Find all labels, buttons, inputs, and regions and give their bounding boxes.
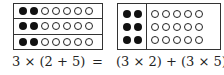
open-dot-icon xyxy=(52,38,60,46)
filled-dot-icon xyxy=(19,22,27,30)
filled-dot-icon xyxy=(123,23,131,31)
open-dot-icon xyxy=(162,10,170,18)
open-dot-icon xyxy=(52,22,60,30)
open-dot-icon xyxy=(63,22,71,30)
open-dot-icon xyxy=(173,23,181,31)
filled-group xyxy=(118,4,147,49)
left-row-1 xyxy=(14,4,102,19)
open-dot-icon xyxy=(41,7,49,15)
open-dot-icon xyxy=(151,10,159,18)
filled-dot-icon xyxy=(19,7,27,15)
filled-dot-icon xyxy=(30,7,38,15)
open-dot-icon xyxy=(173,10,181,18)
open-dot-icon xyxy=(162,36,170,44)
open-dot-icon xyxy=(184,23,192,31)
filled-dot-icon xyxy=(134,23,142,31)
right-array-box xyxy=(117,3,221,50)
open-dot-icon xyxy=(63,38,71,46)
open-dot-icon xyxy=(85,38,93,46)
open-dot-icon xyxy=(162,23,170,31)
filled-dot-icon xyxy=(123,36,131,44)
open-dot-icon xyxy=(74,38,82,46)
left-array-box xyxy=(13,3,103,50)
open-dot-icon xyxy=(85,7,93,15)
filled-dot-icon xyxy=(30,22,38,30)
open-dot-icon xyxy=(184,36,192,44)
open-dot-icon xyxy=(74,7,82,15)
open-dot-icon xyxy=(173,36,181,44)
open-dot-icon xyxy=(151,36,159,44)
filled-dot-icon xyxy=(134,36,142,44)
open-group xyxy=(147,4,220,49)
filled-dot-icon xyxy=(30,38,38,46)
open-dot-icon xyxy=(195,36,203,44)
open-dot-icon xyxy=(52,7,60,15)
filled-dot-icon xyxy=(123,10,131,18)
left-row-3 xyxy=(14,35,102,49)
open-dot-icon xyxy=(85,22,93,30)
equation-left: 3 × (2 + 5) xyxy=(12,54,85,69)
open-dot-icon xyxy=(41,22,49,30)
open-dot-icon xyxy=(195,23,203,31)
open-dot-icon xyxy=(63,7,71,15)
open-dot-icon xyxy=(74,22,82,30)
equation-right: (3 × 2) + (3 × 5) xyxy=(116,54,224,69)
left-row-2 xyxy=(14,19,102,34)
open-dot-icon xyxy=(184,10,192,18)
open-dot-icon xyxy=(151,23,159,31)
equation-equals: = xyxy=(92,54,103,69)
open-dot-icon xyxy=(195,10,203,18)
filled-dot-icon xyxy=(19,38,27,46)
filled-dot-icon xyxy=(134,10,142,18)
open-dot-icon xyxy=(41,38,49,46)
